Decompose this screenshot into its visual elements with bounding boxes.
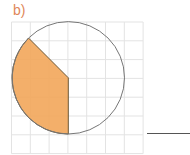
shaded-sector: [12, 38, 68, 134]
circle-grid-diagram: [0, 0, 190, 155]
